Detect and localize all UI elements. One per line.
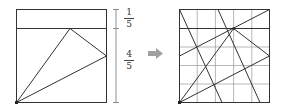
fraction-one-fifth: 1 5 <box>124 8 134 29</box>
denominator: 5 <box>124 20 134 29</box>
numerator: 1 <box>124 8 134 17</box>
left-square-figure <box>15 10 107 105</box>
diagram-canvas <box>0 0 285 109</box>
fraction-four-fifths: 4 5 <box>124 50 134 71</box>
right-arrow-icon <box>148 48 163 59</box>
measure-bracket <box>113 9 119 103</box>
numerator: 4 <box>124 50 134 59</box>
denominator: 5 <box>124 62 134 71</box>
right-grid-figure <box>178 9 270 104</box>
